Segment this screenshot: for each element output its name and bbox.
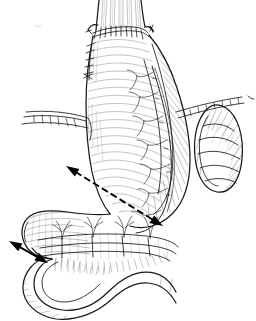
surgical-illustration [0, 0, 256, 321]
canvas-background [0, 0, 256, 321]
figure-container: Surgical illustration: stomach, esophago… [0, 0, 256, 321]
